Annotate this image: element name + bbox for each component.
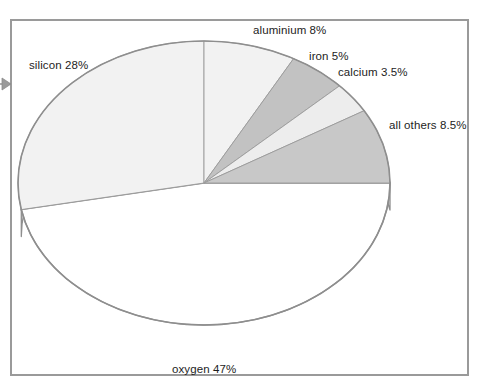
pie-label-iron: iron 5%	[309, 50, 349, 62]
pie-slice-oxygen	[21, 183, 390, 325]
figure-root: silicon 28% aluminium 8% iron 5% calcium…	[0, 0, 481, 390]
pie-label-all-others: all others 8.5%	[389, 119, 467, 131]
pie-label-aluminium: aluminium 8%	[253, 24, 326, 36]
pie-label-silicon: silicon 28%	[29, 59, 88, 71]
pie-label-calcium: calcium 3.5%	[338, 66, 408, 78]
pie-label-oxygen: oxygen 47%	[172, 363, 236, 375]
pie-top-face	[18, 41, 390, 325]
